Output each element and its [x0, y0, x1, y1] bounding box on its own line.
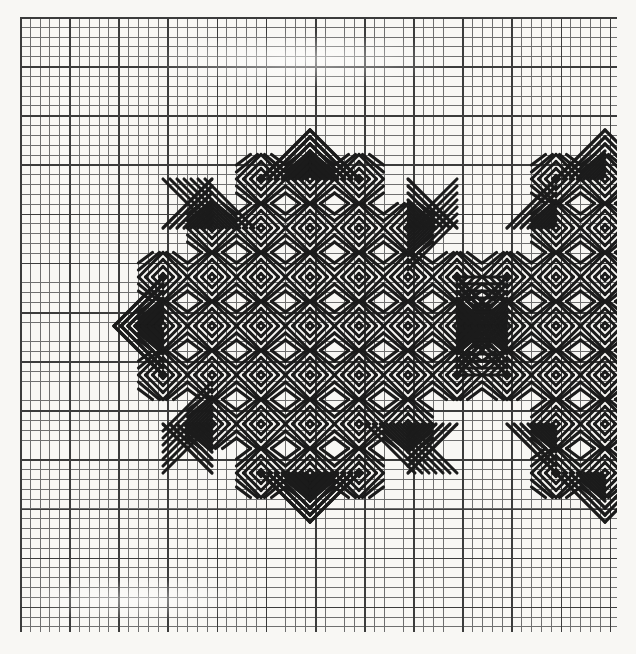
graph-paper-grid: [20, 17, 617, 632]
chart-page: Eight-pointed star needlepoint pattern c…: [0, 0, 636, 654]
